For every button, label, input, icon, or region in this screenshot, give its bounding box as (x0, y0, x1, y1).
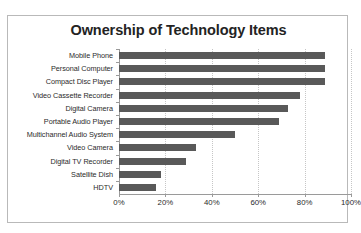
category-label: Compact Disc Player (16, 75, 117, 88)
category-label: HDTV (16, 181, 117, 194)
bar-row (119, 128, 351, 141)
bar-row (119, 168, 351, 181)
value-tick (258, 194, 259, 197)
bar (119, 105, 288, 112)
bar (119, 92, 300, 99)
value-tick-label: 100% (341, 198, 361, 207)
plot-wrapper: Mobile PhonePersonal ComputerCompact Dis… (8, 16, 349, 224)
bar-row (119, 115, 351, 128)
bar-series (119, 49, 351, 194)
bar (119, 158, 186, 165)
bar-row (119, 141, 351, 154)
category-label: Digital Camera (16, 102, 117, 115)
category-label: Digital TV Recorder (16, 155, 117, 168)
bar (119, 131, 235, 138)
category-label: Multichannel Audio System (16, 128, 117, 141)
bar (119, 184, 156, 191)
bar-row (119, 75, 351, 88)
value-tick-label: 60% (250, 198, 266, 207)
value-tick (165, 194, 166, 197)
value-tick-label: 0% (113, 198, 124, 207)
bar-row (119, 102, 351, 115)
value-tick (305, 194, 306, 197)
bar (119, 52, 325, 59)
value-tick-label: 40% (204, 198, 220, 207)
category-label: Portable Audio Player (16, 115, 117, 128)
category-label: Video Camera (16, 141, 117, 154)
chart-container: Ownership of Technology Items Mobile Pho… (7, 15, 348, 223)
category-label: Mobile Phone (16, 49, 117, 62)
bar-row (119, 181, 351, 194)
category-label: Personal Computer (16, 62, 117, 75)
bar (119, 65, 325, 72)
bar (119, 144, 196, 151)
value-axis-ticks (119, 194, 351, 197)
gridline (351, 49, 352, 194)
value-tick-label: 80% (297, 198, 313, 207)
category-axis-labels: Mobile PhonePersonal ComputerCompact Dis… (16, 49, 117, 194)
value-tick (351, 194, 352, 197)
bar (119, 118, 279, 125)
value-axis-labels: 0%20%40%60%80%100% (119, 198, 351, 212)
plot-area (119, 49, 351, 194)
bar-row (119, 89, 351, 102)
value-tick (212, 194, 213, 197)
bar (119, 78, 325, 85)
bar (119, 171, 161, 178)
bar-row (119, 49, 351, 62)
bar-row (119, 155, 351, 168)
value-tick-label: 20% (158, 198, 174, 207)
bar-row (119, 62, 351, 75)
category-label: Video Cassette Recorder (16, 89, 117, 102)
value-tick (119, 194, 120, 197)
category-label: Satellite Dish (16, 168, 117, 181)
